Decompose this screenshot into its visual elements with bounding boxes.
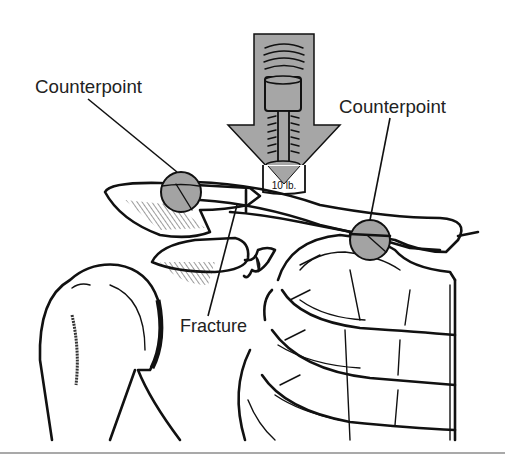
counterpoint-right-marker	[350, 220, 390, 260]
leader-counterpoint-right	[370, 118, 390, 220]
label-counterpoint-left: Counterpoint	[35, 76, 143, 97]
humerus	[40, 265, 180, 440]
clavicle-compression-diagram: 10 lb.	[0, 0, 505, 463]
gauge-reading: 10 lb.	[272, 180, 296, 191]
leader-counterpoint-left	[88, 99, 177, 172]
leader-fracture	[208, 205, 237, 316]
label-fracture: Fracture	[180, 315, 247, 336]
counterpoint-left-marker	[161, 172, 201, 212]
force-arrow: 10 lb.	[228, 34, 340, 194]
rib-cage	[239, 235, 455, 440]
coracoid-process	[152, 238, 275, 285]
label-counterpoint-right: Counterpoint	[339, 96, 447, 117]
clavicle	[195, 182, 478, 252]
